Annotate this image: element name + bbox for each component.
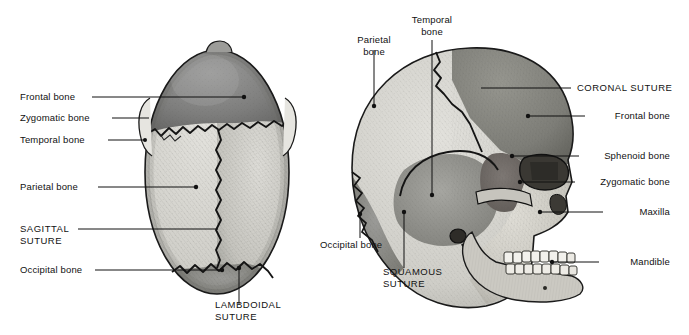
skull-anatomy-figure: Frontal bone Zygomatic bone Temporal bon…	[0, 0, 689, 335]
zygomatic-arch-left	[139, 98, 152, 156]
label-parietal-bone-left: Parietal bone	[20, 181, 78, 194]
label-lambdoidal-suture-line2: SUTURE	[215, 311, 257, 324]
label-temporal-bone-top-line1: Temporal	[399, 14, 465, 27]
label-parietal-bone-top-line1: Parietal	[341, 34, 407, 47]
label-occipital-bone-bottom: Occipital bone	[320, 239, 382, 252]
label-squamous-suture-line1: SQUAMOUS	[383, 266, 442, 279]
label-occipital-bone-left: Occipital bone	[20, 264, 82, 277]
label-parietal-bone-top-line2: bone	[341, 46, 407, 59]
ear-canal-opening	[450, 229, 466, 243]
label-squamous-suture-line2: SUTURE	[383, 278, 425, 291]
label-sagittal-suture-line2: SUTURE	[20, 235, 62, 248]
label-sphenoid-bone-right: Sphenoid bone	[540, 150, 670, 163]
label-zygomatic-bone-right: Zygomatic bone	[540, 176, 670, 189]
label-sagittal-suture-line1: SAGITTAL	[20, 223, 69, 236]
label-zygomatic-bone-left: Zygomatic bone	[20, 112, 90, 125]
label-lambdoidal-suture-line1: LAMBDOIDAL	[215, 299, 281, 312]
label-coronal-suture-right: CORONAL SUTURE	[577, 82, 672, 95]
zygomatic-arch-right	[283, 98, 296, 156]
label-temporal-bone-left: Temporal bone	[20, 134, 85, 147]
label-maxilla-right: Maxilla	[540, 206, 670, 219]
label-mandible-right: Mandible	[540, 256, 670, 269]
label-frontal-bone-left: Frontal bone	[20, 91, 75, 104]
label-frontal-bone-right: Frontal bone	[540, 110, 670, 123]
label-temporal-bone-top-line2: bone	[399, 26, 465, 39]
